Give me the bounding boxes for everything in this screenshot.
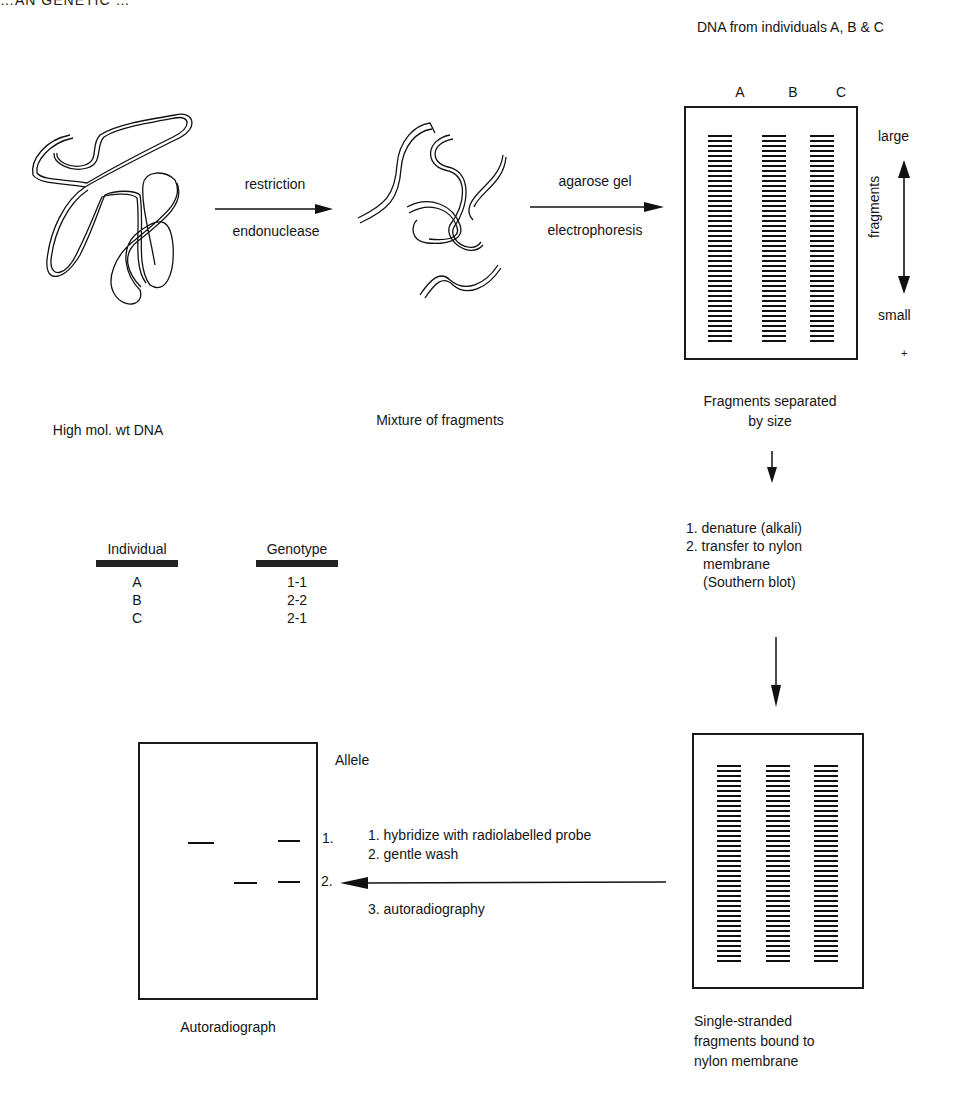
gel-lane-c (810, 135, 834, 345)
arrow-down-icon (766, 451, 778, 483)
gel-title: DNA from individuals A, B & C (697, 18, 884, 36)
band-c-allele-2 (278, 881, 300, 883)
lane-label-c: C (831, 83, 851, 101)
membrane-lane-b (766, 765, 790, 963)
arrow-down-icon (770, 637, 782, 707)
allele-header: Allele (335, 751, 369, 769)
electrophoresis-label: electrophoresis (526, 221, 664, 239)
allele-1-label: 1. (322, 829, 334, 847)
table-cell-genotype: 2-1 (256, 609, 338, 627)
autoradiograph-caption: Autoradiograph (148, 1018, 308, 1036)
positive-electrode-mark: + (901, 344, 907, 362)
arrow-right-icon (530, 201, 666, 213)
dna-fragments-icon (355, 115, 505, 295)
size-large-label: large (878, 127, 909, 145)
table-cell-genotype: 2-2 (256, 591, 338, 609)
transfer-step: 2. transfer to nylon (686, 537, 802, 555)
gentle-wash-step: 2. gentle wash (368, 845, 458, 863)
high-mol-wt-dna-icon (25, 115, 205, 315)
table-cell-individual: C (96, 609, 178, 627)
denature-step: 1. denature (alkali) (686, 519, 802, 537)
lane-label-a: A (730, 83, 750, 101)
membrane-lane-c (814, 765, 838, 963)
arrow-right-icon (215, 203, 335, 215)
header-underline (256, 560, 338, 567)
header-underline (96, 560, 178, 567)
double-arrow-icon (896, 160, 912, 296)
autoradiograph-film (138, 742, 318, 1000)
column-header-individual: Individual (96, 540, 178, 558)
hybridize-step: 1. hybridize with radiolabelled probe (368, 826, 591, 844)
gel-caption-line2: by size (680, 412, 860, 430)
genotype-table-individual-column: Individual A B C (96, 540, 178, 627)
genotype-table-genotype-column: Genotype 1-1 2-2 2-1 (256, 540, 338, 627)
autoradiography-step: 3. autoradiography (368, 900, 485, 918)
column-header-genotype: Genotype (256, 540, 338, 558)
membrane-caption-line2: fragments bound to (694, 1032, 815, 1050)
gel-lane-b (762, 135, 786, 345)
band-c-allele-1 (278, 840, 300, 842)
table-cell-individual: A (96, 573, 178, 591)
gel-caption-line1: Fragments separated (680, 392, 860, 410)
table-cell-genotype: 1-1 (256, 573, 338, 591)
agarose-gel-label: agarose gel (530, 172, 660, 190)
nylon-membrane (692, 733, 864, 989)
fragments-caption: Mixture of fragments (345, 411, 535, 429)
dna-caption: High mol. wt DNA (28, 421, 188, 439)
lane-label-b: B (783, 83, 803, 101)
fragments-axis-label: fragments (865, 176, 883, 238)
membrane-caption-line3: nylon membrane (694, 1052, 798, 1070)
table-cell-individual: B (96, 591, 178, 609)
membrane-lane-a (717, 765, 741, 963)
agarose-gel (684, 106, 858, 360)
restriction-label: restriction (215, 175, 335, 193)
transfer-step-line2: membrane (703, 555, 770, 573)
arrow-left-icon (340, 877, 668, 889)
band-a-allele-1 (188, 842, 214, 844)
page-header-fragment: …AN GENETIC … (0, 0, 130, 9)
endonuclease-label: endonuclease (213, 222, 339, 240)
allele-2-label: 2. (321, 872, 333, 890)
membrane-caption-line1: Single-stranded (694, 1012, 792, 1030)
gel-lane-a (708, 135, 732, 345)
band-b-allele-2 (234, 882, 257, 884)
size-small-label: small (878, 306, 911, 324)
transfer-step-line3: (Southern blot) (703, 573, 796, 591)
